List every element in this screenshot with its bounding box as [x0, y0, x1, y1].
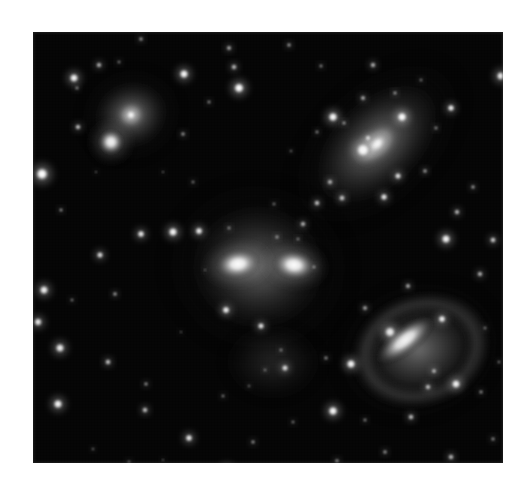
star-31: [286, 42, 291, 47]
galaxy-knot-6: [393, 91, 398, 96]
star-62: [425, 384, 432, 391]
star-16: [137, 230, 146, 239]
star-80: [91, 447, 95, 451]
galaxy-knot-9: [275, 235, 280, 240]
star-8: [96, 251, 104, 259]
star-55: [470, 184, 475, 189]
star-73: [497, 360, 501, 364]
star-11: [105, 359, 112, 366]
star-14: [167, 226, 178, 237]
star-19: [138, 36, 143, 41]
star-67: [382, 449, 387, 454]
star-26: [178, 68, 189, 79]
star-76: [94, 170, 97, 173]
star-40: [314, 200, 321, 207]
star-17: [191, 180, 195, 184]
star-46: [315, 130, 319, 134]
star-22: [142, 407, 149, 414]
star-37: [221, 305, 230, 314]
star-10: [70, 298, 74, 302]
star-38: [257, 322, 265, 330]
star-65: [408, 414, 415, 421]
galaxy-knot-5: [422, 168, 427, 173]
star-58: [477, 271, 483, 277]
star-28: [226, 45, 232, 51]
star-32: [319, 64, 323, 68]
star-71: [491, 437, 496, 442]
galaxy-knot-14: [279, 348, 283, 352]
star-3: [33, 317, 43, 327]
star-47: [370, 62, 376, 68]
star-74: [289, 149, 293, 153]
star-82: [419, 78, 423, 82]
star-78: [247, 384, 251, 388]
star-27: [207, 100, 211, 104]
star-21: [96, 62, 102, 68]
star-66: [363, 418, 367, 422]
star-9: [112, 291, 117, 296]
star-77: [203, 268, 206, 271]
star-68: [327, 405, 339, 417]
star-2: [39, 285, 50, 296]
star-13: [144, 382, 149, 387]
star-53: [380, 193, 388, 201]
star-50: [447, 104, 455, 112]
star-33: [251, 440, 256, 445]
star-20: [117, 60, 121, 64]
galaxy-knot-4: [338, 194, 345, 201]
star-75: [161, 170, 164, 173]
star-4: [55, 343, 66, 354]
star-43: [345, 358, 356, 369]
galaxy-top-left-elliptical-companion: [97, 128, 125, 156]
star-70: [448, 454, 455, 461]
star-63: [451, 379, 462, 390]
star-45: [327, 111, 339, 123]
star-56: [440, 233, 451, 244]
star-60: [362, 305, 368, 311]
star-57: [489, 236, 496, 243]
star-59: [405, 283, 411, 289]
star-30: [231, 64, 238, 71]
star-12: [52, 398, 63, 409]
star-61: [437, 314, 446, 323]
star-15: [194, 226, 203, 235]
star-24: [221, 394, 225, 398]
galaxy-knot-3: [327, 179, 333, 185]
galaxy-knot-8: [434, 126, 438, 130]
star-23: [185, 434, 194, 443]
galaxy-knot-11: [296, 237, 300, 241]
star-49: [365, 135, 372, 142]
galaxy-knot-12: [384, 326, 397, 339]
star-64: [479, 390, 484, 395]
galaxy-knot-13: [431, 368, 437, 374]
star-25: [69, 73, 80, 84]
star-6: [59, 208, 63, 212]
star-44: [312, 265, 316, 269]
galaxy-knot-1: [396, 111, 408, 123]
star-72: [483, 326, 487, 330]
star-84: [161, 458, 164, 461]
star-42: [324, 356, 329, 361]
star-54: [454, 209, 460, 215]
star-41: [281, 364, 289, 372]
galaxy-center-merging-pair-tidal-plume: [221, 322, 325, 402]
star-5: [75, 124, 81, 130]
star-36: [272, 202, 276, 206]
star-35: [291, 420, 295, 424]
star-29: [233, 82, 245, 94]
galaxy-knot-10: [227, 226, 231, 230]
star-52: [394, 172, 402, 180]
star-1: [35, 167, 50, 182]
image-page: Compact group of four interacting galaxi…: [0, 0, 524, 501]
galaxy-knot-15: [263, 368, 267, 372]
astronomical-plate: [33, 32, 503, 463]
star-18: [180, 131, 185, 136]
sky-field: [33, 32, 503, 463]
star-81: [179, 330, 182, 333]
star-39: [300, 221, 306, 227]
star-48: [360, 95, 366, 101]
